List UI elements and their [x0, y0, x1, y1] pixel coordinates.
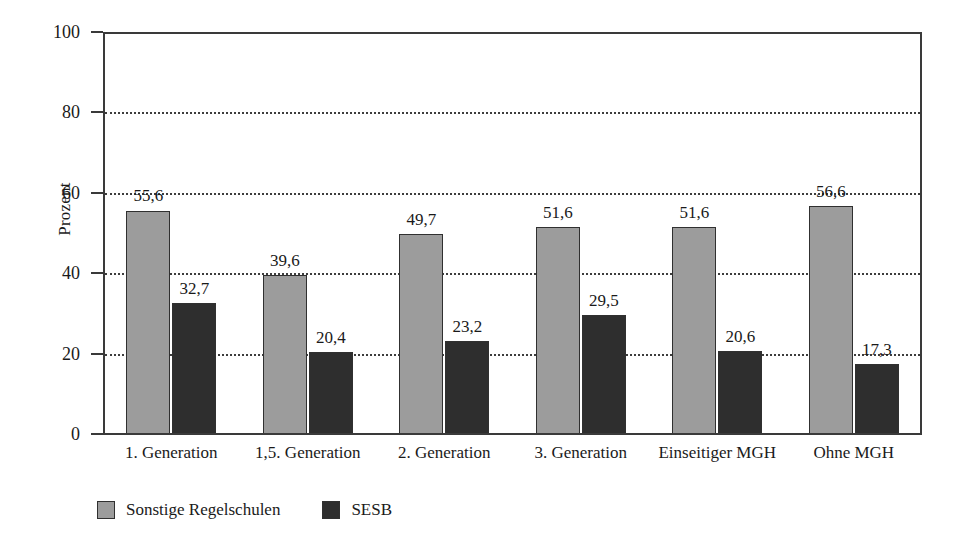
- bar-0-5: [809, 206, 853, 434]
- legend-item-series-1: SESB: [322, 500, 392, 520]
- bar-value-label-0-0: 55,6: [108, 187, 188, 205]
- bar-value-label-0-2: 49,7: [381, 211, 461, 229]
- bar-0-3: [536, 227, 580, 434]
- category-label-1: 1,5. Generation: [240, 443, 377, 463]
- bar-value-label-0-1: 39,6: [245, 252, 325, 270]
- legend-label-series-0: Sonstige Regelschulen: [126, 500, 280, 520]
- bar-value-label-0-3: 51,6: [518, 204, 598, 222]
- bar-value-label-1-1: 20,4: [291, 329, 371, 347]
- bar-1-4: [718, 351, 762, 434]
- y-axis-label-40: 40: [8, 264, 80, 282]
- bar-value-label-0-4: 51,6: [654, 204, 734, 222]
- y-axis-label-0: 0: [8, 425, 80, 443]
- bar-value-label-1-4: 20,6: [700, 328, 780, 346]
- bar-1-3: [582, 315, 626, 434]
- bar-value-label-1-2: 23,2: [427, 318, 507, 336]
- axis-line-bottom: [103, 433, 922, 435]
- y-axis-label-80: 80: [8, 103, 80, 121]
- y-axis-tick-60: [91, 192, 103, 194]
- bar-value-label-0-5: 56,6: [791, 183, 871, 201]
- bar-value-label-1-5: 17,3: [837, 341, 917, 359]
- gridline-80: [105, 112, 920, 114]
- bar-1-2: [445, 341, 489, 434]
- axis-line-right: [920, 32, 922, 435]
- y-axis-tick-100: [91, 31, 103, 33]
- legend-item-series-0: Sonstige Regelschulen: [97, 500, 280, 520]
- y-axis-label-100: 100: [8, 23, 80, 41]
- bar-value-label-1-0: 32,7: [154, 280, 234, 298]
- bar-1-0: [172, 303, 216, 434]
- bar-value-label-1-3: 29,5: [564, 292, 644, 310]
- gridline-20: [105, 354, 920, 356]
- y-axis-tick-0: [91, 433, 103, 435]
- axis-line-left: [103, 32, 105, 435]
- legend-swatch-icon-series-1: [322, 501, 340, 519]
- gridline-40: [105, 273, 920, 275]
- category-label-5: Ohne MGH: [786, 443, 923, 463]
- axis-line-top: [103, 32, 922, 34]
- bar-0-0: [126, 211, 170, 435]
- bar-chart: Prozent 020406080100 55,632,739,620,449,…: [0, 0, 955, 548]
- bar-1-1: [309, 352, 353, 434]
- category-label-0: 1. Generation: [103, 443, 240, 463]
- legend-label-series-1: SESB: [351, 500, 392, 520]
- legend-swatch-icon-series-0: [97, 501, 115, 519]
- plot-area: [103, 32, 922, 434]
- y-axis-title: Prozent: [55, 154, 83, 264]
- category-label-4: Einseitiger MGH: [649, 443, 786, 463]
- y-axis-label-20: 20: [8, 345, 80, 363]
- category-label-2: 2. Generation: [376, 443, 513, 463]
- y-axis-tick-40: [91, 272, 103, 274]
- bar-0-1: [263, 275, 307, 434]
- category-label-3: 3. Generation: [513, 443, 650, 463]
- y-axis-tick-80: [91, 111, 103, 113]
- y-axis-tick-20: [91, 353, 103, 355]
- legend: Sonstige Regelschulen SESB: [97, 498, 434, 522]
- y-axis-label-60: 60: [8, 184, 80, 202]
- bar-1-5: [855, 364, 899, 434]
